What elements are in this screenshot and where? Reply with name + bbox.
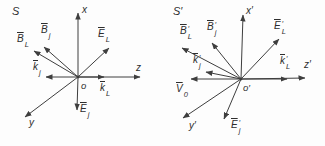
- vector-label-kL: kL: [100, 83, 110, 97]
- vector-label-EL: EL: [98, 29, 110, 43]
- origin-dot: [77, 76, 80, 79]
- vector-letter: B: [17, 34, 24, 44]
- vector-letter: V: [176, 84, 183, 94]
- vector-letter: E: [231, 120, 238, 130]
- prime-mark: [106, 83, 110, 88]
- vector-letter: k: [280, 56, 285, 66]
- prime-mark: [49, 25, 51, 30]
- subscript: j: [239, 128, 241, 134]
- z-prime-axis-label: z′: [304, 60, 311, 70]
- vector-label-Ej-prime: E′j: [231, 120, 240, 134]
- frames-comparison-figure: S x z y o BL Bj EL kj kL Ej S′ x′ z′ y′ …: [0, 0, 325, 146]
- origin-label: o: [81, 81, 86, 91]
- x-prime-axis-label: x′: [246, 6, 253, 16]
- vector-letter: k: [100, 83, 105, 93]
- prime-mark: [88, 104, 90, 109]
- vector-label-BL-prime: B′L: [180, 26, 192, 40]
- prime-mark: [184, 84, 188, 89]
- x-prime-axis: [241, 15, 243, 79]
- subscript: j: [215, 30, 217, 36]
- vector-letter: E: [80, 104, 87, 114]
- vector-label-V0: V0: [176, 84, 188, 98]
- vector-letter: k: [33, 62, 38, 72]
- subscript: L: [106, 37, 110, 43]
- origin-prime-dot: [240, 78, 243, 81]
- vector-label-kj: kj: [33, 62, 41, 76]
- frame-label-S: S: [12, 6, 19, 17]
- vector-letter: B: [41, 25, 48, 35]
- vector-Ej: [77, 77, 78, 110]
- subscript: L: [188, 34, 192, 40]
- prime-mark: [106, 29, 110, 34]
- subscript: L: [286, 64, 290, 70]
- vector-EL-prime: [241, 39, 279, 79]
- subscript: j: [49, 33, 51, 39]
- vector-label-kL-prime: k′L: [280, 56, 290, 70]
- subscript: j: [39, 70, 41, 76]
- vector-label-EL-prime: E′L: [274, 21, 286, 35]
- vector-Bj: [44, 47, 78, 77]
- prime-mark: [25, 34, 29, 39]
- vector-BL-prime: [182, 48, 241, 79]
- vector-label-Ej: Ej: [80, 104, 89, 118]
- subscript: L: [106, 91, 110, 97]
- subscript: j: [88, 112, 90, 118]
- y-axis-label: y: [29, 118, 34, 128]
- y-prime-axis-label: y′: [189, 121, 196, 131]
- subscript: j: [199, 63, 201, 69]
- origin-prime-label: o′: [243, 83, 250, 93]
- vector-letter: E: [98, 29, 105, 39]
- subscript: 0: [184, 92, 188, 98]
- vector-label-kj-prime: k′j: [193, 55, 201, 69]
- frame-label-S-prime: S′: [173, 6, 182, 17]
- subscript: L: [25, 42, 29, 48]
- vector-label-Bj: Bj: [41, 25, 50, 39]
- subscript: L: [282, 29, 286, 35]
- vector-letter: k: [193, 55, 198, 65]
- vector-label-Bj-prime: B′j: [207, 22, 216, 36]
- vector-letter: E: [274, 21, 281, 31]
- prime-mark: [39, 62, 41, 67]
- x-axis-label: x: [82, 5, 87, 15]
- vector-letter: B: [180, 26, 187, 36]
- vector-label-BL: BL: [17, 34, 29, 48]
- y-axis: [25, 77, 78, 117]
- vector-EL: [78, 48, 109, 77]
- vector-letter: B: [207, 22, 214, 32]
- z-axis-label: z: [136, 63, 141, 73]
